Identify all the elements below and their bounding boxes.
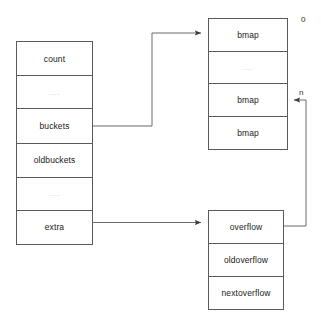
mapextra-struct-box: overflow oldoverflow nextoverflow — [208, 210, 284, 310]
hmap-field-count: count — [17, 42, 92, 76]
hmap-field-oldbuckets-label: oldbuckets — [34, 155, 76, 165]
connector-buckets-to-bmap — [93, 33, 201, 126]
hmap-field-oldbuckets: oldbuckets — [17, 144, 92, 178]
bmap-array-box: bmap .... bmap bmap — [208, 18, 288, 150]
hmap-field-extra: extra — [17, 211, 92, 244]
bmap-cell-n-label: bmap — [237, 95, 259, 105]
bmap-index-first-label: 0 — [301, 15, 305, 24]
mapextra-field-oldoverflow-label: oldoverflow — [224, 255, 268, 265]
hmap-field-count-label: count — [44, 54, 65, 64]
bmap-cell-last-label: bmap — [237, 128, 259, 138]
bmap-cell-ellipsis: .... — [209, 52, 287, 84]
hmap-diagram: count .... buckets oldbuckets .... extra… — [0, 0, 321, 324]
hmap-field-buckets-label: buckets — [40, 121, 70, 131]
bmap-cell-last: bmap — [209, 117, 287, 149]
mapextra-field-nextoverflow: nextoverflow — [209, 277, 283, 309]
hmap-field-buckets: buckets — [17, 109, 92, 143]
bmap-cell-0: bmap — [209, 19, 287, 52]
mapextra-field-oldoverflow: oldoverflow — [209, 244, 283, 277]
hmap-field-ellipsis-1-label: .... — [49, 88, 60, 97]
bmap-cell-ellipsis-label: .... — [242, 63, 253, 72]
mapextra-field-overflow-label: overflow — [230, 222, 262, 232]
mapextra-field-overflow: overflow — [209, 211, 283, 244]
hmap-field-extra-label: extra — [45, 222, 64, 232]
hmap-field-ellipsis-2-label: .... — [49, 189, 60, 198]
hmap-field-ellipsis-2: .... — [17, 178, 92, 211]
mapextra-field-nextoverflow-label: nextoverflow — [222, 288, 271, 298]
hmap-struct-box: count .... buckets oldbuckets .... extra — [16, 41, 93, 245]
bmap-index-last-label: n — [299, 88, 303, 97]
hmap-field-ellipsis-1: .... — [17, 76, 92, 109]
bmap-cell-n: bmap — [209, 84, 287, 117]
bmap-cell-0-label: bmap — [237, 30, 259, 40]
